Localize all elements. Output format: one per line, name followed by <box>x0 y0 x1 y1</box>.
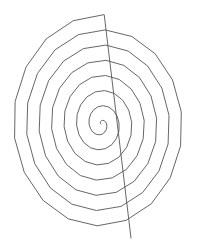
spiral-drawing <box>0 0 204 247</box>
